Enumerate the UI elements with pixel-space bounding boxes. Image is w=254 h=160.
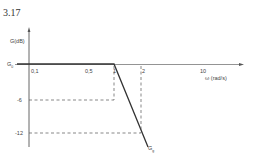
y-tick-minus-12: -12 bbox=[15, 130, 23, 136]
g0-label: G0 bbox=[7, 61, 13, 69]
tick-10: 10 bbox=[200, 68, 206, 74]
x-axis-arrow-icon bbox=[239, 63, 244, 66]
y-axis-arrow-icon bbox=[28, 27, 31, 32]
tick-0-5: 0,5 bbox=[85, 68, 93, 74]
tick-0-1: 0,1 bbox=[31, 68, 39, 74]
magnitude-curve bbox=[17, 64, 148, 147]
tick-1: 1 bbox=[113, 68, 116, 74]
y-axis-label: G(dB) bbox=[10, 38, 25, 44]
x-axis-label: ω (rad/s) bbox=[205, 75, 227, 81]
bode-plot: G(dB) G0 0,1 0,5 1 2 10 ω (rad/s) -6 -12… bbox=[0, 0, 254, 160]
y-tick-minus-6: -6 bbox=[17, 97, 22, 103]
reference-lines bbox=[29, 66, 141, 133]
gg-label: Gg bbox=[148, 145, 154, 153]
tick-2: 2 bbox=[142, 68, 145, 74]
